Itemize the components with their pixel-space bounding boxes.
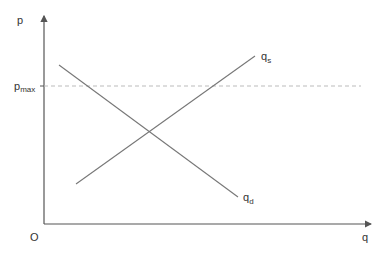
origin-label: O xyxy=(30,231,39,243)
supply-curve xyxy=(76,56,255,184)
price-ceiling-label: pmax xyxy=(14,80,35,94)
x-axis-label: q xyxy=(362,231,368,243)
y-axis-label: p xyxy=(17,14,23,26)
supply-label: qs xyxy=(261,50,271,65)
supply-demand-diagram: p pmax qs qd O q xyxy=(0,0,385,254)
demand-label: qd xyxy=(243,191,254,206)
